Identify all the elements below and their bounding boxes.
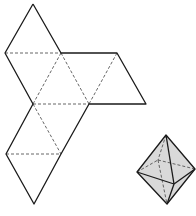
octahedron-net bbox=[5, 4, 146, 204]
fold-line bbox=[33, 53, 61, 104]
fold-line bbox=[61, 53, 89, 104]
assembled-octahedron bbox=[137, 135, 195, 204]
fold-line bbox=[33, 104, 61, 154]
octahedron-diagram bbox=[0, 0, 196, 216]
octahedron-body bbox=[137, 135, 195, 204]
fold-line bbox=[89, 53, 117, 104]
